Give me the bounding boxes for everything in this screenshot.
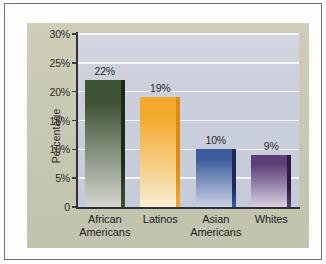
bar-edge-shadow <box>176 97 180 207</box>
x-axis-tick-label-line: Americans <box>171 226 261 239</box>
bar-edge-shadow <box>232 149 236 207</box>
y-axis-tick-label: 10% <box>28 143 70 155</box>
y-axis-tick <box>72 149 77 151</box>
x-axis-tick-label: Whites <box>226 213 316 226</box>
bar-fill <box>251 155 291 207</box>
bar-fill <box>85 80 125 207</box>
y-axis-tick-label: 20% <box>28 86 70 98</box>
y-axis-tick-label: 0 <box>28 201 70 213</box>
bar-2[interactable] <box>140 97 180 207</box>
bar-fill <box>196 149 236 207</box>
y-axis-tick-label: 25% <box>28 57 70 69</box>
x-axis-tick-label-line: Americans <box>60 226 150 239</box>
bar-edge-shadow <box>287 155 291 207</box>
y-axis-tick-label: 30% <box>28 28 70 40</box>
x-axis-line <box>76 207 300 209</box>
plot-area: 22%19%10%9% <box>77 34 299 207</box>
y-axis-tick <box>72 33 77 35</box>
y-axis-tick <box>72 177 77 179</box>
y-axis-tick <box>72 120 77 122</box>
bar-value-label: 9% <box>241 140 301 152</box>
y-axis-tick-label: 5% <box>28 172 70 184</box>
figure-outer-border: Percentage 05%10%15%20%25%30% 22%19%10%9… <box>4 3 322 260</box>
chart-panel: Percentage 05%10%15%20%25%30% 22%19%10%9… <box>27 23 309 248</box>
y-axis-tick-label: 15% <box>28 115 70 127</box>
y-axis-tick <box>72 91 77 93</box>
bar-value-label: 19% <box>130 82 190 94</box>
bar-3[interactable] <box>196 149 236 207</box>
figure-root: Percentage 05%10%15%20%25%30% 22%19%10%9… <box>0 0 326 264</box>
bar-edge-shadow <box>121 80 125 207</box>
bar-value-label: 10% <box>186 134 246 146</box>
bar-4[interactable] <box>251 155 291 207</box>
x-axis-tick-label-line: Whites <box>226 213 316 226</box>
y-axis-tick <box>72 62 77 64</box>
bar-1[interactable] <box>85 80 125 207</box>
gridline <box>77 33 299 35</box>
figure-mat: Percentage 05%10%15%20%25%30% 22%19%10%9… <box>5 4 321 259</box>
gridline <box>77 62 299 64</box>
bar-value-label: 22% <box>75 65 135 77</box>
bar-fill <box>140 97 180 207</box>
